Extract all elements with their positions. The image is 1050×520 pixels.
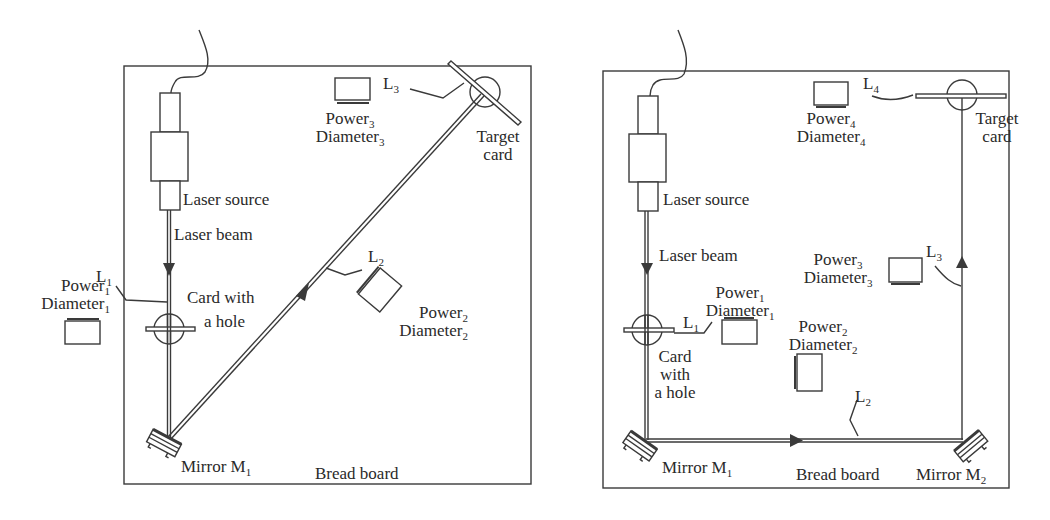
- left-laser-source-label: Laser source: [183, 191, 269, 209]
- right-l4-label: L4: [863, 75, 879, 93]
- right-mirror-m1: [621, 431, 658, 464]
- left-arrow-diagonal-icon: [296, 283, 309, 301]
- left-laser-cable: [171, 30, 208, 93]
- left-target-card: [448, 61, 521, 125]
- right-detector-2: [795, 354, 822, 391]
- optical-setup-diagram: [0, 0, 1050, 520]
- left-card-hole-label-1: Card with: [187, 289, 255, 307]
- left-laser-beam-label: Laser beam: [174, 226, 253, 244]
- right-detector-2-label: Power2 Diameter2: [773, 318, 873, 354]
- right-card-with-hole: [624, 315, 674, 345]
- right-laser-beam-label: Laser beam: [659, 247, 738, 265]
- left-l3-leader: [410, 83, 464, 98]
- right-laser-source: [629, 96, 666, 211]
- left-target-card-label: Targetcard: [468, 128, 528, 164]
- right-detector-3: [889, 258, 922, 284]
- left-detector-3: [335, 78, 370, 103]
- right-mirror-m2-label: Mirror M2: [916, 466, 986, 484]
- right-l3-label: L3: [926, 243, 942, 261]
- right-bread-board-label: Bread board: [796, 466, 880, 484]
- right-laser-cable: [650, 30, 686, 96]
- right-detector-3-label: Power3 Diameter3: [788, 251, 888, 287]
- left-detector-2-label: Power2 Diameter2: [368, 304, 468, 340]
- right-detector-1: [722, 318, 757, 344]
- left-arrow-down-icon: [163, 263, 175, 276]
- right-arrow-up-icon: [956, 256, 968, 268]
- right-target-card-label: Targetcard: [967, 110, 1027, 146]
- right-target-card: [916, 80, 1006, 110]
- left-detector-3-label: Power3 Diameter3: [300, 110, 400, 146]
- right-card-hole-label: Cardwitha hole: [650, 348, 700, 402]
- right-arrow-right-icon: [790, 434, 803, 447]
- right-l4-leader: [872, 95, 913, 99]
- left-detector-1-label: Power1 Diameter1: [10, 277, 110, 313]
- right-l3-leader: [935, 266, 961, 286]
- right-laser-source-label: Laser source: [663, 191, 749, 209]
- left-card-hole-label-2: a hole: [204, 313, 245, 331]
- left-l3-label: L3: [383, 75, 399, 93]
- left-l2-leader: [326, 268, 362, 275]
- right-arrow-down-icon: [641, 263, 653, 275]
- left-card-with-hole: [146, 314, 195, 344]
- right-mirror-m1-label: Mirror M1: [662, 459, 732, 477]
- right-l2-label: L2: [855, 388, 871, 406]
- left-l2-label: L2: [368, 248, 384, 266]
- left-bread-board-label: Bread board: [315, 465, 399, 483]
- left-panel: [65, 30, 531, 484]
- right-beam-horizontal: [646, 439, 963, 442]
- right-detector-1-label: Power1 Diameter1: [690, 284, 790, 320]
- right-detector-4-label: Power4 Diameter4: [781, 110, 881, 146]
- right-mirror-m2: [954, 430, 990, 464]
- left-mirror-m1-label: Mirror M1: [181, 458, 251, 476]
- left-detector-1: [65, 319, 100, 344]
- right-detector-4: [814, 82, 848, 107]
